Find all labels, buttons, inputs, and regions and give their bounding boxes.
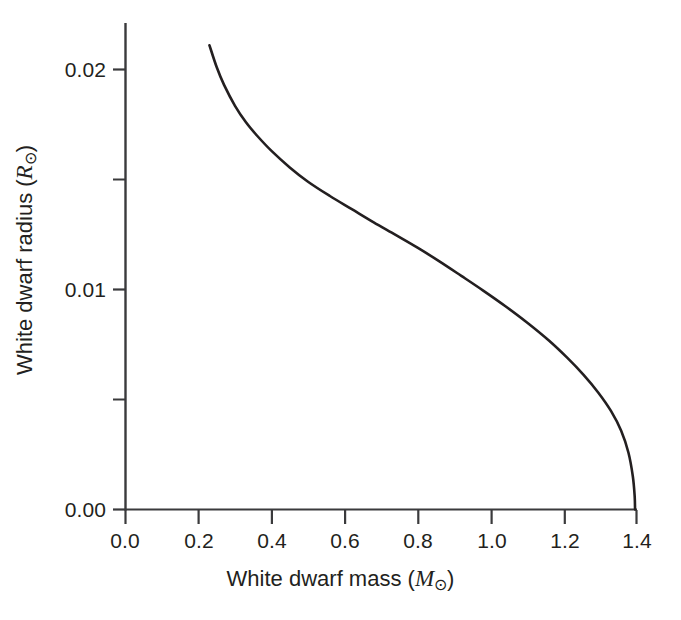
x-tick-label-4: 0.8	[403, 529, 433, 553]
y-axis-title-symbol: R	[12, 165, 37, 179]
x-tick-label-0: 0.0	[110, 529, 140, 553]
x-axis-title-suffix: )	[447, 566, 454, 591]
y-axis-title-wrap: White dwarf radius (R⊙)	[0, 0, 50, 520]
mass-radius-curve	[209, 45, 635, 509]
y-axis-title-text: White dwarf radius (	[12, 179, 37, 375]
sun-symbol-icon: ⊙	[22, 152, 39, 165]
x-tick-label-5: 1.0	[477, 529, 507, 553]
sun-symbol-icon: ⊙	[434, 576, 447, 593]
x-axis-title-symbol: M	[415, 566, 434, 591]
x-tick-label-3: 0.6	[330, 529, 360, 553]
x-tick-label-7: 1.4	[622, 529, 652, 553]
x-axis-title: White dwarf mass (M⊙)	[0, 566, 681, 592]
x-tick-label-2: 0.4	[257, 529, 287, 553]
x-axis-title-text: White dwarf mass (	[227, 566, 415, 591]
white-dwarf-mass-radius-figure: 0.00 0.01 0.02 0.0 0.2 0.4 0.6 0.8 1.0 1…	[0, 0, 681, 620]
x-tick-label-6: 1.2	[550, 529, 580, 553]
x-tick-label-1: 0.2	[184, 529, 214, 553]
y-axis-title: White dwarf radius (R⊙)	[12, 145, 38, 375]
plot-area	[0, 0, 681, 620]
